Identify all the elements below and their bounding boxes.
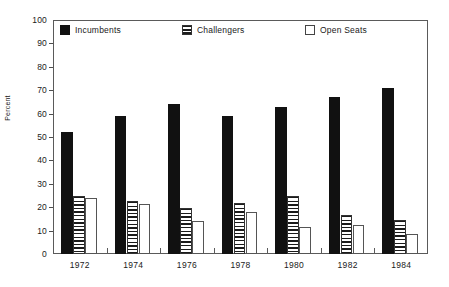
bar-incumbents-1978 [222,116,234,254]
legend-swatch-icon [182,25,192,35]
bar-incumbents-1980 [275,107,287,254]
bar-open-seats-1978 [246,212,258,254]
y-axis-tick-label: 20 [21,202,47,212]
y-axis-tick-label: 40 [21,155,47,165]
y-axis-tick-label: 60 [21,109,47,119]
legend-item-open-seats: Open Seats [305,25,367,35]
bar-challengers-1974 [127,201,139,254]
x-axis-tick-label: 1982 [323,260,373,270]
y-axis-tick-label: 50 [21,132,47,142]
legend-swatch-icon [305,25,315,35]
bar-open-seats-1972 [85,198,97,254]
x-axis-tick-mark [321,248,322,254]
bar-group [374,20,428,254]
legend-item-incumbents: Incumbents [60,25,121,35]
x-axis-tick-label: 1976 [162,260,212,270]
legend-swatch-icon [60,25,70,35]
bar-incumbents-1982 [329,97,341,254]
bar-group [267,20,321,254]
bar-group [53,20,107,254]
bar-challengers-1972 [73,196,85,255]
bar-group [107,20,161,254]
y-axis-tick-label: 100 [21,15,47,25]
x-axis-tick-mark [214,248,215,254]
bar-group [321,20,375,254]
x-axis-tick-label: 1974 [108,260,158,270]
bar-open-seats-1980 [299,227,311,254]
x-axis-tick-mark [107,248,108,254]
legend-label: Incumbents [75,25,121,35]
bar-challengers-1982 [341,215,353,254]
bar-group [214,20,268,254]
legend-label: Open Seats [320,25,367,35]
x-axis-tick-label: 1984 [376,260,426,270]
bar-open-seats-1976 [192,221,204,254]
bar-challengers-1984 [394,220,406,254]
x-axis-tick-label: 1972 [55,260,105,270]
x-axis-tick-label: 1980 [269,260,319,270]
bar-incumbents-1984 [382,88,394,254]
bar-incumbents-1972 [61,132,73,254]
legend-item-challengers: Challengers [182,25,245,35]
x-axis-tick-mark [160,248,161,254]
y-axis-tick-label: 0 [21,249,47,259]
bar-challengers-1976 [180,208,192,254]
bar-open-seats-1974 [139,204,151,254]
bar-open-seats-1984 [406,234,418,254]
bar-challengers-1980 [287,196,299,255]
y-axis-tick-label: 80 [21,62,47,72]
bar-incumbents-1974 [115,116,127,254]
y-axis-tick-label: 30 [21,179,47,189]
bar-challengers-1978 [234,203,246,254]
y-axis-title: Percent [4,78,11,138]
y-axis-tick-label: 10 [21,226,47,236]
bars-layer [53,20,428,254]
x-axis-tick-mark [267,248,268,254]
bar-open-seats-1982 [353,225,365,254]
bar-group [160,20,214,254]
bar-chart-figure: Percent 0102030405060708090100 197219741… [0,0,449,287]
y-axis-tick-label: 70 [21,85,47,95]
y-axis-tick-label: 90 [21,38,47,48]
legend-label: Challengers [197,25,245,35]
bar-incumbents-1976 [168,104,180,254]
x-axis-tick-label: 1978 [216,260,266,270]
x-axis-tick-mark [374,248,375,254]
